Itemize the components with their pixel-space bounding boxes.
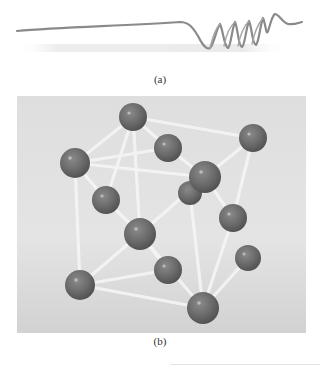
figure-b-caption: (b) bbox=[0, 335, 320, 347]
crystal-lattice-model-illustration bbox=[17, 96, 306, 333]
figure-b-crystal-lattice-photo bbox=[17, 96, 306, 333]
page-divider bbox=[170, 364, 320, 365]
spring-wire-illustration bbox=[0, 0, 320, 72]
figure-a-caption: (a) bbox=[0, 73, 320, 85]
